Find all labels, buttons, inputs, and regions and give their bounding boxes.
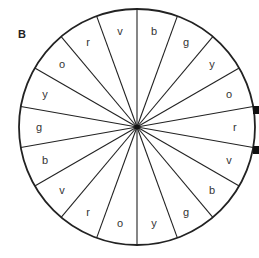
sector-label: b xyxy=(151,25,157,37)
sector-label: v xyxy=(59,184,65,196)
sector-label: r xyxy=(86,206,90,218)
sector-label: b xyxy=(209,184,215,196)
sector-label: g xyxy=(183,206,189,218)
sector-label: b xyxy=(42,154,48,166)
sector-divider xyxy=(137,16,177,127)
sector-label: g xyxy=(36,121,42,133)
sector-divider xyxy=(137,37,213,127)
edge-marker-lower xyxy=(253,146,259,154)
sector-label: v xyxy=(117,25,123,37)
sector-divider xyxy=(137,127,177,238)
sector-label: o xyxy=(117,217,123,229)
sector-divider xyxy=(61,37,137,127)
sector-label: v xyxy=(226,154,232,166)
sector-label: g xyxy=(183,36,189,48)
center-hub xyxy=(135,125,140,130)
sector-label: y xyxy=(42,88,48,100)
sector-label: r xyxy=(86,36,90,48)
sector-divider xyxy=(137,127,213,217)
sector-label: o xyxy=(226,88,232,100)
sector-label: y xyxy=(151,217,157,229)
sector-label: y xyxy=(209,58,215,70)
sector-divider xyxy=(61,127,137,217)
color-wheel-diagram: bgyorvbgyorvbgyorv xyxy=(0,0,259,258)
sector-label: o xyxy=(59,58,65,70)
sector-label: r xyxy=(233,121,237,133)
edge-marker-upper xyxy=(253,106,259,114)
